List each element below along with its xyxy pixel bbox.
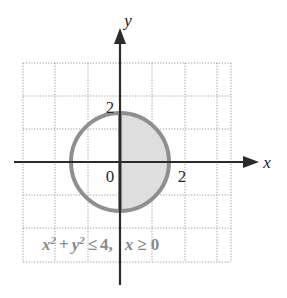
eqn-leq: ≤ (88, 235, 97, 254)
inequality-annotation: x2+y2≤4,x≥0 (41, 234, 159, 254)
x-axis-label: x (262, 153, 271, 172)
eqn-geq: ≥ (137, 235, 146, 254)
eqn-x1: x (41, 235, 51, 254)
y-tick-label-2: 2 (106, 98, 115, 117)
eqn-y1-exponent: 2 (78, 234, 85, 246)
figure-container: x y 2 0 2 x2+y2≤4,x≥0 (0, 0, 287, 298)
eqn-comma: , (109, 235, 113, 254)
eqn-x2: x (124, 235, 134, 254)
origin-label: 0 (106, 167, 115, 186)
eqn-plus: + (59, 235, 69, 254)
y-axis-label: y (122, 11, 132, 30)
eqn-y1: y (70, 235, 80, 254)
eqn-zero: 0 (151, 235, 160, 254)
graph-canvas: x y 2 0 2 x2+y2≤4,x≥0 (0, 0, 287, 298)
svg-text:x2+y2≤4,x≥0: x2+y2≤4,x≥0 (41, 234, 159, 254)
x-tick-label-2: 2 (178, 167, 187, 186)
eqn-x1-exponent: 2 (50, 234, 57, 246)
